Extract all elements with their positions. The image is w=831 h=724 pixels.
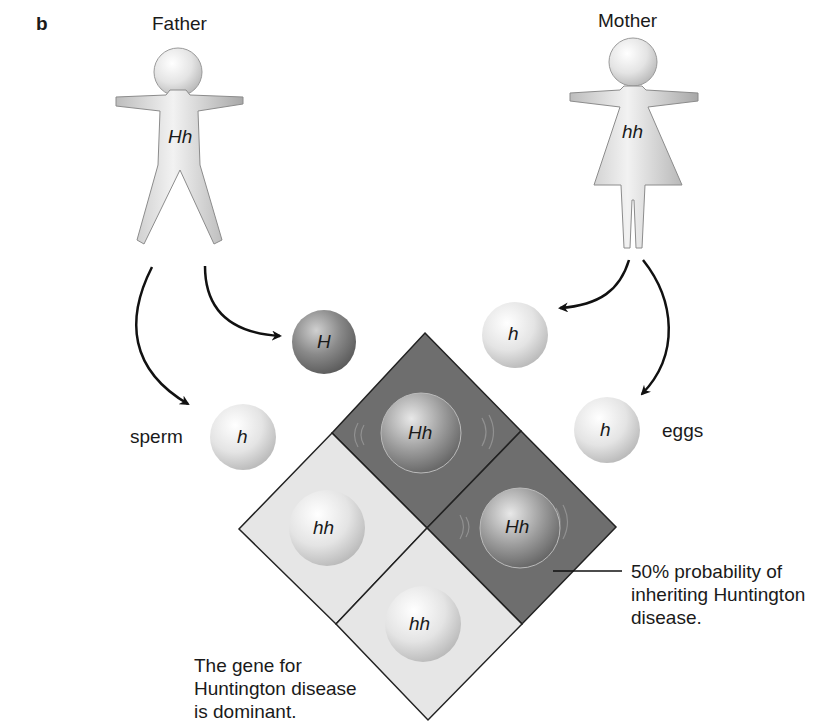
sperm-allele-h: h <box>237 425 248 449</box>
eggs-label: eggs <box>662 419 703 443</box>
father-genotype: Hh <box>168 125 192 149</box>
cell-left-genotype: hh <box>313 516 334 540</box>
sperm-label: sperm <box>130 425 183 449</box>
egg-allele-h-2: h <box>600 418 611 442</box>
cell-right-genotype: Hh <box>505 515 529 539</box>
mother-genotype: hh <box>622 120 643 144</box>
probability-annotation: 50% probability of inheriting Huntington… <box>631 560 805 629</box>
cell-top-genotype: Hh <box>408 421 432 445</box>
dominance-annotation: The gene for Huntington disease is domin… <box>194 654 357 723</box>
panel-label: b <box>36 12 48 36</box>
mother-label: Mother <box>598 9 657 33</box>
father-label: Father <box>152 12 207 36</box>
sperm-allele-H: H <box>317 330 331 354</box>
egg-allele-h-1: h <box>508 322 519 346</box>
cell-bottom-genotype: hh <box>409 612 430 636</box>
